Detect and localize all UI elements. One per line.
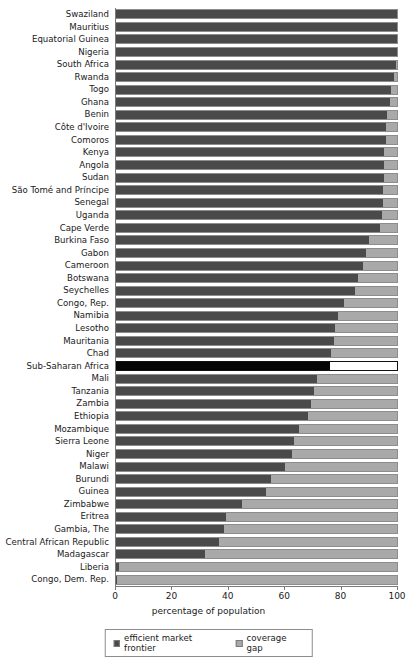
bar-row[interactable] [115,372,398,385]
stacked-bar[interactable] [115,487,398,497]
bar-row[interactable] [115,423,398,436]
bar-row[interactable] [115,272,398,285]
bar-row[interactable] [115,485,398,498]
stacked-bar[interactable] [115,223,398,233]
stacked-bar[interactable] [115,22,398,32]
legend-item-coverage-gap: coverage gap [236,633,304,653]
bar-row[interactable] [115,209,398,222]
bar-row[interactable] [115,284,398,297]
bar-row[interactable] [115,548,398,561]
bar-row[interactable] [115,360,398,373]
stacked-bar[interactable] [115,449,398,459]
bar-row[interactable] [115,134,398,147]
bar-row[interactable] [115,511,398,524]
stacked-bar[interactable] [115,97,398,107]
stacked-bar[interactable] [115,474,398,484]
bar-row[interactable] [115,448,398,461]
bar-row[interactable] [115,322,398,335]
stacked-bar[interactable] [115,411,398,421]
bar-row[interactable] [115,498,398,511]
bar-row[interactable] [115,310,398,323]
bar-segment-coverage-gap [383,199,397,207]
stacked-bar[interactable] [115,512,398,522]
bar-row[interactable] [115,109,398,122]
bar-row[interactable] [115,159,398,172]
bar-row[interactable] [115,33,398,46]
bar-row[interactable] [115,335,398,348]
bar-row[interactable] [115,121,398,134]
stacked-bar[interactable] [115,72,398,82]
stacked-bar[interactable] [115,47,398,57]
stacked-bar[interactable] [115,235,398,245]
stacked-bar[interactable] [115,135,398,145]
stacked-bar[interactable] [115,110,398,120]
stacked-bar[interactable] [115,210,398,220]
stacked-bar[interactable] [115,122,398,132]
stacked-bar[interactable] [115,524,398,534]
stacked-bar[interactable] [115,147,398,157]
stacked-bar[interactable] [115,261,398,271]
bar-row[interactable] [115,21,398,34]
stacked-bar[interactable] [115,185,398,195]
stacked-bar[interactable] [115,298,398,308]
bar-row[interactable] [115,46,398,59]
bar-row[interactable] [115,83,398,96]
stacked-bar[interactable] [115,248,398,258]
stacked-bar[interactable] [115,336,398,346]
stacked-bar[interactable] [115,374,398,384]
bar-row[interactable] [115,297,398,310]
stacked-bar[interactable] [115,537,398,547]
bar-row[interactable] [115,247,398,260]
bar-row[interactable] [115,397,398,410]
stacked-bar[interactable] [115,323,398,333]
stacked-bar[interactable] [115,286,398,296]
bar-row[interactable] [115,171,398,184]
bar-row[interactable] [115,347,398,360]
stacked-bar[interactable] [115,273,398,283]
x-axis-title: percentage of population [0,606,417,616]
stacked-bar[interactable] [115,9,398,19]
stacked-bar[interactable] [115,160,398,170]
stacked-bar[interactable] [115,499,398,509]
bar-row[interactable] [115,523,398,536]
bar-segment-coverage-gap [299,425,397,433]
bar-row[interactable] [115,96,398,109]
stacked-bar[interactable] [115,173,398,183]
bar-row[interactable] [115,536,398,549]
bar-row[interactable] [115,222,398,235]
bar-row[interactable] [115,71,398,84]
bar-row[interactable] [115,196,398,209]
bar-row[interactable] [115,8,398,21]
bar-row[interactable] [115,460,398,473]
stacked-bar[interactable] [115,348,398,358]
bar-segment-efficient-market-frontier [116,425,299,433]
bar-row[interactable] [115,385,398,398]
bar-row[interactable] [115,234,398,247]
stacked-bar[interactable] [115,436,398,446]
bar-row[interactable] [115,58,398,71]
stacked-bar[interactable] [115,198,398,208]
bar-row[interactable] [115,573,398,586]
bar-row[interactable] [115,473,398,486]
stacked-bar[interactable] [115,575,398,585]
bars-column [115,8,398,586]
stacked-bar[interactable] [115,549,398,559]
bar-row[interactable] [115,259,398,272]
bar-segment-efficient-market-frontier [116,262,363,270]
stacked-bar[interactable] [115,85,398,95]
bar-row[interactable] [115,410,398,423]
stacked-bar[interactable] [115,562,398,572]
stacked-bar[interactable] [115,386,398,396]
stacked-bar[interactable] [115,361,398,371]
bar-row[interactable] [115,561,398,574]
stacked-bar[interactable] [115,60,398,70]
stacked-bar[interactable] [115,34,398,44]
bar-row[interactable] [115,435,398,448]
stacked-bar[interactable] [115,311,398,321]
stacked-bar[interactable] [115,424,398,434]
bar-row[interactable] [115,146,398,159]
x-axis-tick [341,586,342,590]
stacked-bar[interactable] [115,399,398,409]
bar-row[interactable] [115,184,398,197]
stacked-bar[interactable] [115,462,398,472]
